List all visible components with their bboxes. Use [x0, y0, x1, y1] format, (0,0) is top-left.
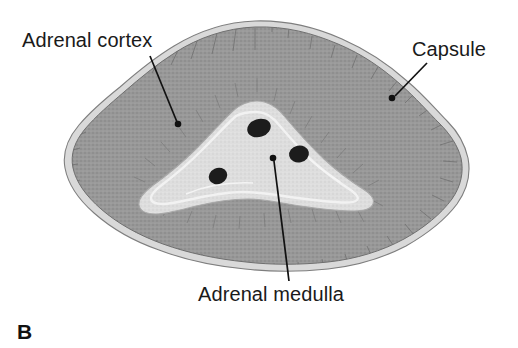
panel-letter: B [17, 320, 32, 344]
label-adrenal-cortex: Adrenal cortex [22, 29, 152, 51]
medulla-leader-dot [270, 155, 277, 162]
adrenal-gland-figure: Adrenal cortex Capsule Adrenal medulla B [0, 0, 518, 348]
capsule-leader-dot [389, 95, 396, 102]
label-capsule: Capsule [412, 38, 486, 60]
label-adrenal-medulla: Adrenal medulla [198, 283, 344, 305]
cortex-leader-dot [175, 121, 182, 128]
